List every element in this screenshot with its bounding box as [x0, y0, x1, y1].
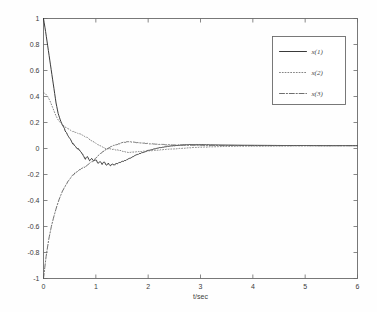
y-tick-label: -0.4 [27, 197, 39, 204]
x-tick-label: 4 [251, 283, 255, 290]
y-tick-label: -0.2 [27, 171, 39, 178]
legend-label-2: x(2) [311, 69, 324, 77]
y-tick-label: 0 [36, 145, 40, 152]
legend-box: x(1)x(2)x(3) [273, 37, 346, 105]
y-tick-label: 0.6 [30, 67, 40, 74]
line-chart: 0123456 10.80.60.40.20-0.2-0.4-0.6-0.8-1… [0, 0, 377, 312]
series-line-3 [44, 142, 358, 279]
y-tick-label: 0.8 [30, 41, 40, 48]
legend-label-1: x(1) [311, 48, 324, 56]
y-tick-label: 0.2 [30, 119, 40, 126]
y-tick-label: -1 [33, 275, 39, 282]
x-axis-tick-labels: 0123456 [42, 283, 360, 290]
x-tick-label: 3 [199, 283, 203, 290]
x-tick-label: 1 [94, 283, 98, 290]
y-axis-tick-labels: 10.80.60.40.20-0.2-0.4-0.6-0.8-1 [27, 15, 39, 282]
figure-canvas: 0123456 10.80.60.40.20-0.2-0.4-0.6-0.8-1… [0, 0, 377, 312]
y-tick-label: 1 [36, 15, 40, 22]
y-tick-label: 0.4 [30, 93, 40, 100]
x-tick-label: 2 [146, 283, 150, 290]
y-tick-label: -0.8 [27, 249, 39, 256]
legend-label-3: x(3) [311, 90, 324, 98]
x-tick-label: 5 [303, 283, 307, 290]
y-tick-label: -0.6 [27, 223, 39, 230]
x-tick-label: 0 [42, 283, 46, 290]
x-tick-label: 6 [356, 283, 360, 290]
legend-border [273, 37, 346, 105]
x-axis-label: t/sec [193, 293, 208, 300]
